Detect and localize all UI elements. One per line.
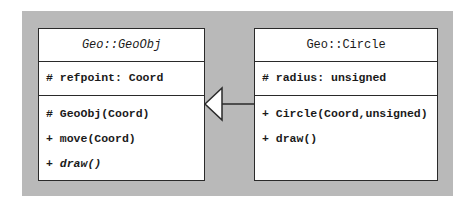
inheritance-triangle-icon <box>205 88 222 120</box>
generalization-arrow <box>0 0 475 207</box>
